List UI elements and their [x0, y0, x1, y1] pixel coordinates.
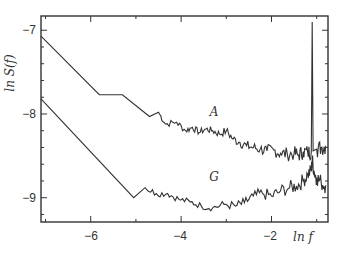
spectrum-chart: −7 −8 −9 −6 −4 −2 ln f ln S(f) A G — [0, 0, 347, 255]
series-a-line — [41, 22, 326, 161]
axis-ticks — [41, 16, 328, 222]
xtick-label-m4: −4 — [173, 229, 187, 243]
ytick-label-m9: −9 — [22, 191, 36, 205]
series-g-label: G — [209, 170, 219, 184]
y-axis-label: ln S(f) — [3, 54, 17, 92]
series-a-label: A — [209, 105, 219, 119]
xtick-label-m6: −6 — [84, 229, 98, 243]
ytick-label-m7: −7 — [22, 23, 36, 37]
plot-frame — [41, 16, 328, 222]
series-g-line — [41, 99, 326, 211]
xtick-label-m2: −2 — [263, 229, 277, 243]
x-axis-label: ln f — [293, 230, 315, 244]
ytick-label-m8: −8 — [22, 107, 36, 121]
